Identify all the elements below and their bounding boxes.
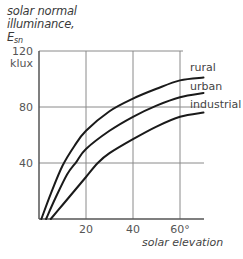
x-axis-label: solar elevation bbox=[142, 236, 223, 249]
tick-labels: 4080120klux204060° bbox=[10, 45, 190, 236]
series-label-urban: urban bbox=[190, 80, 222, 93]
x-tick-label: 40 bbox=[126, 223, 140, 236]
grid-lines bbox=[39, 51, 204, 219]
illuminance-chart: 4080120klux204060° ruralurbanindustrial bbox=[0, 0, 243, 259]
series-labels: ruralurbanindustrial bbox=[190, 61, 241, 111]
series-label-industrial: industrial bbox=[190, 98, 241, 111]
y-unit-label: klux bbox=[10, 57, 33, 70]
y-tick-label: 80 bbox=[19, 101, 33, 114]
y-tick-label: 40 bbox=[19, 157, 33, 170]
series-label-rural: rural bbox=[190, 61, 216, 74]
x-tick-label: 60° bbox=[170, 223, 190, 236]
x-tick-label: 20 bbox=[79, 223, 93, 236]
curve-rural bbox=[41, 78, 203, 219]
curves bbox=[41, 78, 203, 219]
axes bbox=[39, 51, 204, 219]
